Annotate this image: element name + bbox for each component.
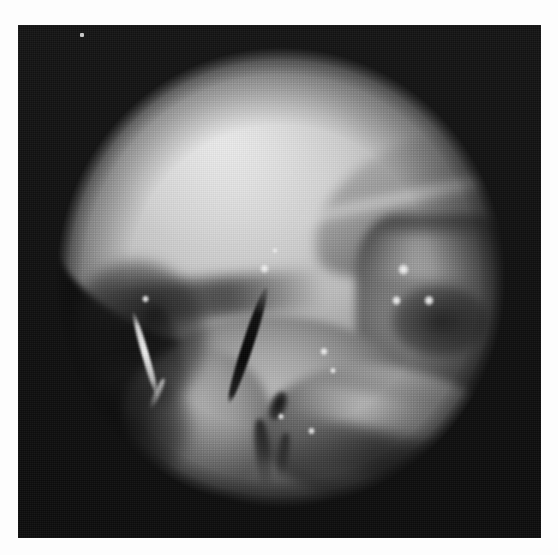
- specular-highlight: [142, 295, 149, 303]
- specular-highlight: [278, 413, 284, 420]
- specular-highlight: [392, 295, 401, 306]
- specular-highlight: [330, 367, 336, 374]
- screenshot-root: Endoscopic grayscale photograph: [0, 0, 558, 555]
- specular-highlight: [260, 263, 269, 274]
- specular-highlight: [320, 347, 328, 356]
- specular-highlight: [398, 263, 409, 276]
- endoscope-field-of-view: [56, 47, 506, 509]
- photograph-plate: [18, 25, 541, 538]
- right-lateral-block-highlight: [368, 233, 488, 279]
- specular-highlight: [272, 247, 278, 254]
- dust-speck-artifact: [80, 33, 84, 37]
- specular-highlight: [308, 427, 315, 435]
- specular-highlight: [424, 295, 434, 306]
